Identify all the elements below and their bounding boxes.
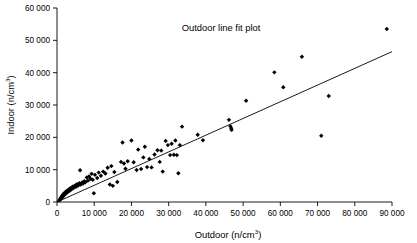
data-point-marker xyxy=(180,124,184,128)
data-point-marker xyxy=(227,118,231,122)
y-tick-label: 50 000 xyxy=(25,36,50,45)
x-axis-title-tail: ) xyxy=(258,229,261,240)
data-point-marker xyxy=(120,140,124,144)
x-tick-label: 10 000 xyxy=(82,209,107,218)
y-axis-title-tail: ) xyxy=(5,75,16,78)
x-tick-label: 50 000 xyxy=(231,209,256,218)
data-point-marker xyxy=(159,148,163,152)
x-tick-label: 40 000 xyxy=(193,209,218,218)
data-point-marker xyxy=(109,164,113,168)
data-point-marker xyxy=(168,153,172,157)
x-axis-ticks: 010 00020 00030 00040 00050 00060 00070 … xyxy=(55,202,405,218)
data-point-marker xyxy=(139,167,143,171)
x-axis-title-main: Outdoor (n/cm xyxy=(195,229,255,240)
data-point-marker xyxy=(176,171,180,175)
y-tick-label: 0 xyxy=(45,198,50,207)
y-tick-label: 30 000 xyxy=(25,101,50,110)
y-tick-label: 40 000 xyxy=(25,69,50,78)
y-axis-title-main: Indoor (n/cm xyxy=(5,82,16,135)
data-point-marker xyxy=(272,70,276,74)
data-point-marker xyxy=(96,170,100,174)
x-tick-label: 0 xyxy=(55,209,60,218)
data-point-marker xyxy=(149,165,153,169)
data-point-marker xyxy=(126,159,130,163)
plot-axes xyxy=(57,8,392,202)
scatter-plot-svg: 010 00020 00030 00040 00050 00060 000 01… xyxy=(0,0,417,243)
data-point-marker xyxy=(327,94,331,98)
data-point-marker xyxy=(129,138,133,142)
x-tick-label: 30 000 xyxy=(156,209,181,218)
y-tick-label: 10 000 xyxy=(25,166,50,175)
data-point-marker xyxy=(105,166,109,170)
data-point-marker xyxy=(158,160,162,164)
x-tick-label: 60 000 xyxy=(268,209,293,218)
data-point-marker xyxy=(152,152,156,156)
data-point-marker xyxy=(173,138,177,142)
data-point-marker xyxy=(115,180,119,184)
data-point-marker xyxy=(92,191,96,195)
data-point-marker xyxy=(131,160,135,164)
data-point-marker xyxy=(300,55,304,59)
data-point-marker xyxy=(99,174,103,178)
data-point-marker xyxy=(244,99,248,103)
data-point-marker xyxy=(134,168,138,172)
x-tick-label: 70 000 xyxy=(305,209,330,218)
data-point-marker xyxy=(281,85,285,89)
y-tick-label: 20 000 xyxy=(25,133,50,142)
chart-figure: 010 00020 00030 00040 00050 00060 000 01… xyxy=(0,0,417,243)
data-point-marker xyxy=(93,173,97,177)
scatter-markers xyxy=(57,27,389,203)
data-point-marker xyxy=(155,148,159,152)
x-tick-label: 20 000 xyxy=(119,209,144,218)
data-point-marker xyxy=(141,155,145,159)
data-point-marker xyxy=(112,170,116,174)
x-tick-label: 90 000 xyxy=(379,209,404,218)
chart-title: Outdoor line fit plot xyxy=(182,22,261,33)
data-point-marker xyxy=(145,165,149,169)
data-point-marker xyxy=(163,139,167,143)
y-axis-ticks: 010 00020 00030 00040 00050 00060 000 xyxy=(25,4,57,207)
regression-fit-line xyxy=(57,52,392,202)
data-point-marker xyxy=(319,134,323,138)
data-point-marker xyxy=(136,147,140,151)
data-point-marker xyxy=(175,153,179,157)
data-point-marker xyxy=(143,145,147,149)
data-point-marker xyxy=(196,133,200,137)
y-tick-label: 60 000 xyxy=(25,4,50,13)
data-point-marker xyxy=(78,168,82,172)
x-axis-title: Outdoor (n/cm3) xyxy=(195,228,262,240)
data-point-marker xyxy=(385,27,389,31)
data-point-marker xyxy=(161,169,165,173)
y-axis-title: Indoor (n/cm3) xyxy=(4,75,16,134)
data-point-marker xyxy=(201,138,205,142)
x-tick-label: 80 000 xyxy=(342,209,367,218)
data-point-marker xyxy=(169,142,173,146)
data-point-marker xyxy=(166,143,170,147)
data-point-marker xyxy=(95,176,99,180)
